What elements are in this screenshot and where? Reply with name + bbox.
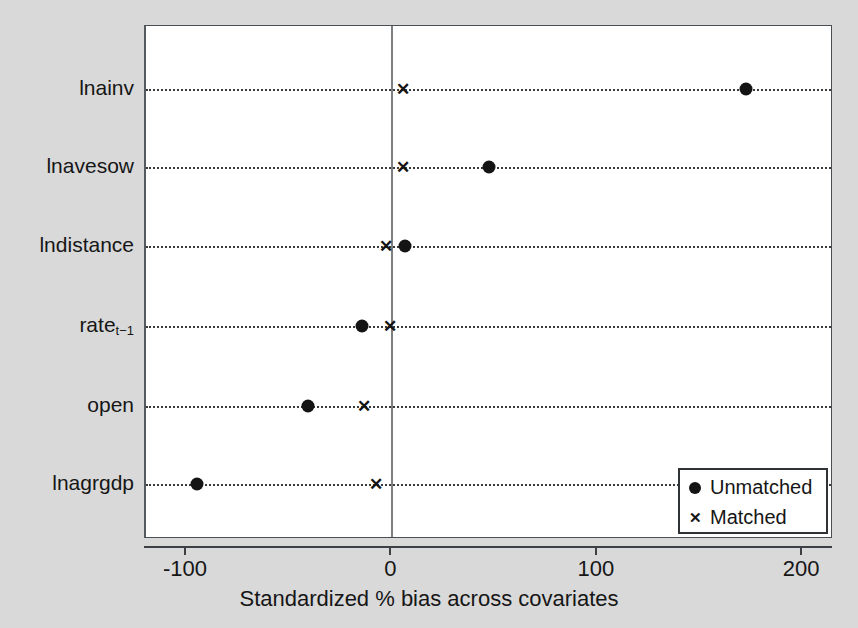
marker-matched: ✕ bbox=[379, 238, 393, 255]
y-tick-lnavesow-text: lnavesow bbox=[46, 154, 134, 177]
y-tick-rate-text: rate bbox=[79, 313, 115, 336]
y-tick-lndistance-text: lndistance bbox=[39, 233, 134, 256]
row-line bbox=[146, 326, 831, 328]
legend-label-matched: Matched bbox=[710, 506, 787, 529]
marker-unmatched bbox=[739, 83, 752, 96]
y-tick-open: open bbox=[87, 393, 144, 417]
plot-area: ✕✕✕✕✕✕ Unmatched ✕ Matched bbox=[144, 25, 832, 538]
x-axis-title: Standardized % bias across covariates bbox=[0, 586, 858, 612]
row-line bbox=[146, 246, 831, 248]
y-tick-rate-sub: t−1 bbox=[116, 323, 134, 338]
legend-box: Unmatched ✕ Matched bbox=[678, 468, 828, 534]
x-tick-mark bbox=[184, 546, 186, 555]
zero-reference-line bbox=[391, 26, 393, 537]
marker-matched: ✕ bbox=[369, 476, 383, 493]
y-tick-lndistance: lndistance bbox=[39, 233, 144, 257]
y-tick-rate: ratet−1 bbox=[79, 313, 144, 337]
legend-label-unmatched: Unmatched bbox=[710, 476, 812, 499]
bias-dot-chart: lnainv lnavesow lndistance ratet−1 open … bbox=[0, 0, 858, 628]
x-tick-label: 100 bbox=[577, 556, 614, 582]
x-axis-line bbox=[144, 546, 832, 548]
x-tick-mark bbox=[389, 546, 391, 555]
legend-dot-icon bbox=[680, 479, 710, 497]
row-line bbox=[146, 406, 831, 408]
y-tick-open-text: open bbox=[87, 393, 134, 416]
x-tick-label: -100 bbox=[163, 556, 207, 582]
marker-matched: ✕ bbox=[383, 318, 397, 335]
marker-unmatched bbox=[191, 478, 204, 491]
marker-matched: ✕ bbox=[357, 398, 371, 415]
y-axis-labels: lnainv lnavesow lndistance ratet−1 open … bbox=[0, 0, 144, 628]
marker-matched: ✕ bbox=[396, 81, 410, 98]
marker-matched: ✕ bbox=[396, 159, 410, 176]
marker-unmatched bbox=[398, 240, 411, 253]
marker-unmatched bbox=[302, 400, 315, 413]
legend-entry-unmatched: Unmatched bbox=[680, 472, 826, 503]
y-tick-lnainv: lnainv bbox=[79, 76, 144, 100]
x-tick-label: 0 bbox=[384, 556, 396, 582]
marker-unmatched bbox=[355, 320, 368, 333]
marker-unmatched bbox=[482, 161, 495, 174]
x-tick-label: 200 bbox=[783, 556, 820, 582]
y-tick-lnainv-text: lnainv bbox=[79, 76, 134, 99]
legend-entry-matched: ✕ Matched bbox=[680, 502, 826, 533]
row-line bbox=[146, 89, 831, 91]
legend-x-icon: ✕ bbox=[680, 509, 710, 527]
y-tick-lnagrgdp: lnagrgdp bbox=[52, 471, 144, 495]
y-tick-lnavesow: lnavesow bbox=[46, 154, 144, 178]
x-tick-mark bbox=[595, 546, 597, 555]
y-tick-lnagrgdp-text: lnagrgdp bbox=[52, 471, 134, 494]
x-tick-mark bbox=[800, 546, 802, 555]
